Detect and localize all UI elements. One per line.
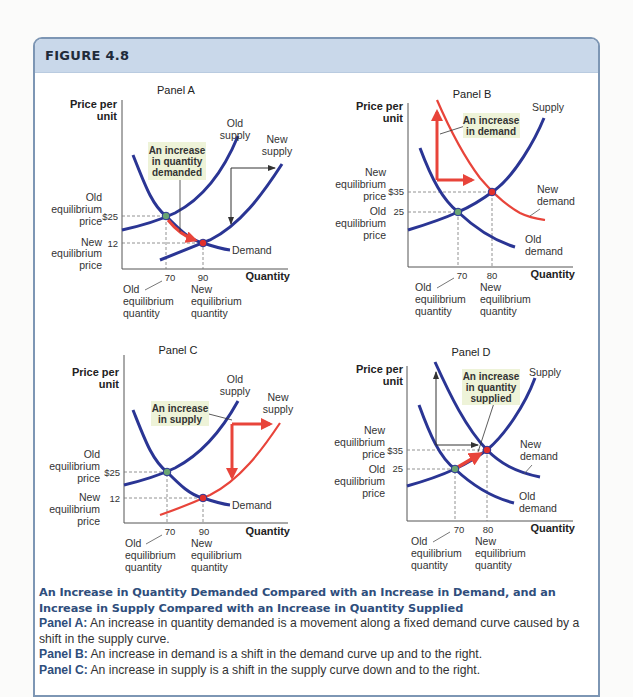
svg-text:equilibrium: equilibrium	[49, 503, 100, 515]
svg-text:equilibrium: equilibrium	[335, 178, 386, 190]
svg-text:New: New	[520, 438, 541, 450]
svg-text:70: 70	[454, 524, 465, 535]
svg-text:demand: demand	[525, 245, 563, 257]
svg-text:New: New	[266, 133, 287, 145]
panel-b-new-equilibrium-point	[488, 188, 496, 196]
svg-text:Old: Old	[415, 281, 432, 293]
svg-text:An increase: An increase	[152, 403, 209, 414]
svg-text:equilibrium: equilibrium	[411, 547, 462, 559]
svg-text:equilibrium: equilibrium	[51, 203, 102, 215]
svg-text:quantity: quantity	[411, 559, 449, 571]
svg-text:New: New	[537, 183, 558, 195]
svg-text:equilibrium: equilibrium	[335, 217, 386, 229]
svg-text:Demand: Demand	[232, 244, 272, 256]
svg-text:25: 25	[393, 206, 404, 217]
panel-a: Panel A Price per unit Quantity An incre…	[51, 84, 293, 319]
caption-panel-a: Panel A: An increase in quantity demande…	[39, 616, 599, 647]
svg-text:quantity: quantity	[125, 561, 163, 573]
svg-text:demand: demand	[519, 502, 557, 514]
svg-text:New: New	[191, 537, 212, 549]
panel-b-title: Panel B	[453, 88, 492, 100]
svg-text:supply: supply	[220, 385, 251, 397]
svg-text:equilibrium: equilibrium	[475, 547, 526, 559]
svg-text:70: 70	[457, 270, 468, 281]
svg-text:New: New	[365, 166, 386, 178]
svg-text:quantity: quantity	[480, 305, 518, 317]
svg-text:Demand: Demand	[232, 499, 272, 511]
svg-text:New: New	[364, 424, 385, 436]
panel-a-new-equilibrium-point	[199, 239, 207, 247]
panel-c-new-equilibrium-point	[199, 494, 207, 502]
svg-text:price: price	[79, 259, 102, 271]
svg-text:$35: $35	[387, 445, 403, 456]
svg-text:quantity: quantity	[475, 559, 513, 571]
svg-text:$25: $25	[102, 211, 118, 222]
svg-text:unit: unit	[383, 375, 403, 387]
svg-text:Quantity: Quantity	[530, 522, 575, 534]
svg-text:An increase: An increase	[463, 115, 520, 126]
svg-text:quantity: quantity	[191, 561, 229, 573]
svg-text:Price per: Price per	[356, 363, 404, 375]
svg-text:quantity: quantity	[123, 307, 161, 319]
svg-text:equilibrium: equilibrium	[334, 475, 385, 487]
svg-text:New: New	[191, 283, 212, 295]
svg-text:Quantity: Quantity	[245, 525, 290, 537]
svg-text:New: New	[480, 281, 501, 293]
svg-text:New: New	[79, 491, 100, 503]
svg-text:Supply: Supply	[529, 366, 562, 378]
caption-title: An Increase in Quantity Demanded Compare…	[39, 585, 599, 616]
svg-text:in demand: in demand	[466, 126, 516, 137]
panel-d-old-equilibrium-point	[451, 465, 459, 473]
svg-text:price: price	[363, 190, 386, 202]
panel-d: Panel D Price per unit Quantity An incre…	[334, 346, 576, 571]
svg-text:unit: unit	[99, 378, 119, 390]
svg-text:Price per: Price per	[72, 366, 120, 378]
svg-text:Old: Old	[370, 205, 387, 217]
svg-text:unit: unit	[383, 112, 403, 124]
svg-text:equilibrium: equilibrium	[191, 549, 242, 561]
caption-panel-b: Panel B: An increase in demand is a shif…	[39, 647, 599, 663]
svg-text:equilibrium: equilibrium	[191, 295, 242, 307]
svg-text:price: price	[77, 472, 100, 484]
panel-a-title: Panel A	[157, 84, 196, 96]
svg-text:equilibrium: equilibrium	[480, 293, 531, 305]
svg-text:quantity: quantity	[191, 307, 229, 319]
svg-text:12: 12	[109, 493, 120, 504]
svg-text:Old: Old	[411, 535, 428, 547]
svg-text:90: 90	[199, 526, 210, 537]
svg-text:Old: Old	[369, 463, 386, 475]
svg-text:12: 12	[107, 238, 118, 249]
svg-text:Old: Old	[123, 283, 140, 295]
svg-text:equilibrium: equilibrium	[49, 460, 100, 472]
svg-text:price: price	[79, 215, 102, 227]
svg-text:$25: $25	[104, 467, 120, 478]
panel-d-movement-arrow	[458, 454, 480, 467]
panel-a-y-label-1: Price per	[70, 98, 118, 110]
svg-text:in quantity: in quantity	[466, 382, 517, 393]
svg-text:80: 80	[483, 524, 494, 535]
svg-text:Old: Old	[86, 191, 103, 203]
svg-text:Quantity: Quantity	[530, 268, 575, 280]
panel-d-new-equilibrium-point	[483, 446, 491, 454]
caption-panel-c: Panel C: An increase in supply is a shif…	[39, 663, 599, 679]
panel-d-title: Panel D	[451, 346, 490, 358]
svg-text:An increase: An increase	[149, 145, 206, 156]
svg-text:80: 80	[487, 270, 498, 281]
svg-text:price: price	[362, 448, 385, 460]
svg-text:supply: supply	[262, 145, 293, 157]
svg-text:Old: Old	[125, 537, 142, 549]
svg-text:Old: Old	[227, 117, 244, 129]
svg-text:New: New	[267, 391, 288, 403]
panel-c: Panel C Price per unit Quantity An incre…	[49, 344, 294, 573]
svg-text:price: price	[77, 515, 100, 527]
svg-text:An increase: An increase	[463, 371, 520, 382]
svg-text:Supply: Supply	[532, 101, 565, 113]
panel-c-title: Panel C	[158, 344, 197, 356]
svg-text:price: price	[363, 229, 386, 241]
svg-text:New: New	[475, 535, 496, 547]
panel-a-y-label-2: unit	[97, 110, 117, 122]
svg-text:$35: $35	[388, 186, 404, 197]
svg-text:in supply: in supply	[158, 414, 202, 425]
panel-b-old-demand-curve	[420, 148, 515, 247]
svg-text:supply: supply	[263, 403, 294, 415]
